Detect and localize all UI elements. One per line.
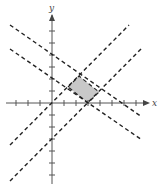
x-axis-arrow-icon: [143, 100, 150, 106]
y-axis-arrow-icon: [49, 14, 55, 21]
line-y-equals-x-minus-3: [10, 48, 142, 181]
y-axis-label: y: [48, 3, 55, 13]
line-lower-decreasing: [10, 49, 142, 140]
y-axis: [49, 15, 55, 184]
x-axis-label: x: [152, 98, 157, 108]
coordinate-plane-diagram: x y: [0, 0, 161, 189]
